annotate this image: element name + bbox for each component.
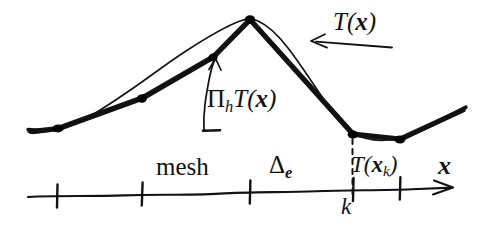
label-nodal-value-close: ) <box>390 152 398 177</box>
label-element: Δe <box>269 152 292 181</box>
x-axis-line <box>28 188 452 197</box>
leader-T-arrowhead <box>311 34 327 47</box>
interpolant-right-tail <box>440 108 466 121</box>
label-element-sub: e <box>285 163 292 182</box>
label-interpolant-arg: x <box>256 85 269 112</box>
axis-tick-1 <box>57 185 58 208</box>
node-dot <box>348 131 359 139</box>
curve-interpolant-PiT-path <box>31 20 463 140</box>
axis-tick-5 <box>400 177 401 199</box>
leader-T-annotation <box>311 34 392 47</box>
label-interpolant-close: ) <box>268 85 276 112</box>
sketch-drawing <box>0 0 479 236</box>
label-interpolant-pi: Π <box>207 85 225 112</box>
curve-interpolant-PiT-overstroke <box>33 21 461 140</box>
axis-tick-3 <box>250 181 251 204</box>
x-axis-group <box>28 177 453 207</box>
label-exact-function-base: T( <box>333 8 355 35</box>
node-dot <box>137 94 147 102</box>
label-element-base: Δ <box>269 151 285 178</box>
label-nodal-value-sub: k <box>383 162 390 179</box>
interpolant-left-tail <box>28 130 44 131</box>
label-node-index-k: k <box>341 195 351 218</box>
curve-interpolant-PiT <box>28 20 466 141</box>
label-exact-function-arg: x <box>355 8 368 35</box>
label-interpolant: ΠhT(x) <box>207 86 276 115</box>
leader-T-line <box>316 42 392 48</box>
label-nodal-value: T(xk) <box>351 153 397 178</box>
curve-exact-T <box>28 19 466 140</box>
label-exact-function: T(x) <box>333 9 376 34</box>
label-interpolant-base: T( <box>233 85 255 112</box>
label-x-axis: x <box>438 153 451 179</box>
label-nodal-value-arg: x <box>371 152 383 177</box>
label-exact-function-close: ) <box>368 8 376 35</box>
leader-PiT-foot-tick <box>203 130 220 131</box>
curve-exact-T-path <box>28 19 466 140</box>
node-dot <box>395 136 406 144</box>
figure-canvas: T(x) ΠhT(x) mesh Δe T(xk) x k <box>0 0 479 236</box>
node-dot <box>245 15 255 23</box>
node-dot <box>52 125 63 133</box>
label-nodal-value-base: T( <box>351 152 371 177</box>
axis-tick-2 <box>142 183 143 206</box>
label-mesh: mesh <box>156 154 209 179</box>
